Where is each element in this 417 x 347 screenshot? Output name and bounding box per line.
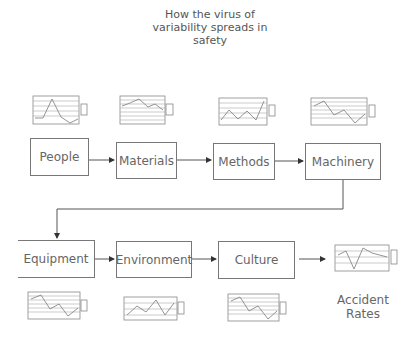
box-machinery: Machinery — [305, 143, 381, 180]
box-equipment: Equipment — [18, 240, 95, 278]
box-equipment-label: Equipment — [23, 252, 88, 266]
accident-rates-label: Accident Rates — [333, 293, 393, 321]
box-methods: Methods — [213, 143, 275, 180]
box-people-label: People — [40, 150, 80, 164]
chart-equipment — [28, 292, 87, 319]
box-culture: Culture — [218, 241, 295, 279]
arrow-machinery-equipment — [57, 180, 343, 238]
chart-machinery — [311, 98, 375, 125]
accident-rates-line-2: Rates — [333, 307, 393, 321]
box-materials-label: Materials — [119, 154, 174, 168]
box-materials: Materials — [116, 142, 177, 179]
box-people: People — [30, 138, 89, 176]
chart-culture — [228, 294, 286, 321]
chart-environment — [124, 297, 184, 320]
chart-methods — [219, 98, 275, 125]
chart-accident-rates — [335, 245, 397, 271]
chart-people — [33, 96, 87, 124]
box-methods-label: Methods — [218, 155, 269, 169]
box-environment: Environment — [116, 241, 192, 278]
box-environment-label: Environment — [116, 253, 193, 267]
box-culture-label: Culture — [235, 253, 279, 267]
chart-materials — [120, 96, 173, 124]
accident-rates-line-1: Accident — [333, 293, 393, 307]
box-machinery-label: Machinery — [312, 155, 374, 169]
